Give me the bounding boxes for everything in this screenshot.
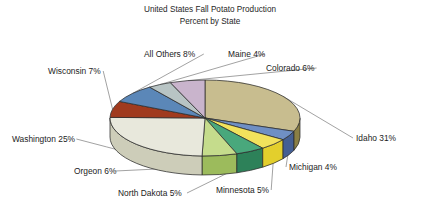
pie-chart-figure: United States Fall Potato Production Per… (0, 0, 421, 215)
slice-label-colorado: Colorado 6% (266, 63, 315, 73)
leader-line-wisconsin (103, 71, 112, 109)
pie-chart-svg: United States Fall Potato Production Per… (0, 0, 421, 215)
slice-label-minnesota: Minnesota 5% (216, 185, 270, 195)
chart-title: United States Fall Potato Production (144, 5, 276, 14)
slice-label-wisconsin: Wisconsin 7% (48, 66, 101, 76)
slice-label-idaho: Idaho 31% (356, 133, 397, 143)
slice-label-all-others: All Others 8% (144, 49, 196, 59)
slice-label-north-dakota: North Dakota 5% (118, 188, 182, 198)
pie-top-faces-group (110, 80, 300, 156)
slice-label-orgeon: Orgeon 6% (74, 166, 117, 176)
slice-label-washington: Washington 25% (12, 134, 76, 144)
slice-label-michigan: Michigan 4% (289, 162, 338, 172)
chart-subtitle: Percent by State (180, 17, 241, 26)
pie-slice-side-orgeon (202, 154, 237, 175)
slice-label-maine: Maine 4% (228, 49, 266, 59)
